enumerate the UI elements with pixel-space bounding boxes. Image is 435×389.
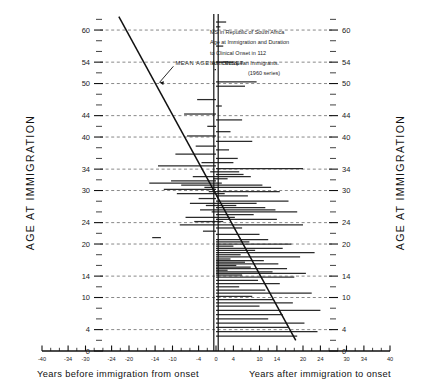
y-tick-label-right: 34 (342, 165, 350, 174)
y-tick-label-right: 0 (342, 347, 346, 356)
y-tick-label-right: 40 (342, 133, 350, 142)
x-axis-title-left: Years before immigration from onset (37, 369, 199, 379)
y-tick-label-right: 44 (342, 111, 350, 120)
x-tick-label: -10 (168, 356, 176, 362)
x-tick-label: 34 (361, 356, 367, 362)
chart-title-line: (1960 series) (248, 70, 280, 76)
immigration-onset-chart: -40-34-30-24-20-14-10-404101420243034400… (0, 0, 435, 389)
y-tick-label-left: 40 (82, 133, 90, 142)
chart-root: -40-34-30-24-20-14-10-404101420243034400… (0, 0, 435, 389)
y-tick-label-right: 30 (342, 186, 350, 195)
x-tick-label: -20 (125, 356, 133, 362)
x-tick-label: -40 (38, 356, 46, 362)
y-tick-label-right: 54 (342, 58, 350, 67)
y-tick-label-left: 14 (82, 272, 90, 281)
x-tick-label: 14 (274, 356, 280, 362)
chart-title-line: to Clinical Onset in 112 (210, 50, 266, 56)
y-tick-label-right: 50 (342, 79, 350, 88)
y-axis-title-left: AGE AT IMMIGRATION (24, 115, 36, 250)
y-tick-label-left: 20 (82, 240, 90, 249)
x-tick-label: 10 (256, 356, 262, 362)
y-tick-label-right: 24 (342, 218, 350, 227)
y-axis-title-right: AGE AT IMMIGRATION (394, 115, 406, 250)
y-tick-label-right: 60 (342, 26, 350, 35)
y-tick-label-right: 14 (342, 272, 350, 281)
x-tick-label: 20 (300, 356, 306, 362)
y-tick-label-left: 30 (82, 186, 90, 195)
y-tick-label-right: 20 (342, 240, 350, 249)
x-tick-label: 40 (387, 356, 393, 362)
y-tick-label-left: 10 (82, 293, 90, 302)
y-tick-label-left: 34 (82, 165, 90, 174)
y-tick-label-left: 24 (82, 218, 90, 227)
y-tick-label-left: 54 (82, 58, 90, 67)
chart-title-line: Age at Immigration and Duration (210, 39, 289, 45)
y-tick-label-left: 0 (86, 347, 90, 356)
x-tick-label: -4 (196, 356, 201, 362)
x-tick-label: -30 (81, 356, 89, 362)
mean-age-annotation-label: MEAN AGE AT ONSET (175, 60, 244, 66)
x-tick-label: -14 (151, 356, 159, 362)
chart-title-line: MS in Republic of South Africa (210, 29, 285, 35)
y-tick-label-left: 4 (86, 325, 90, 334)
x-tick-label: 30 (343, 356, 349, 362)
x-tick-label: 4 (232, 356, 235, 362)
y-tick-label-left: 44 (82, 111, 90, 120)
x-tick-label: -24 (108, 356, 116, 362)
x-tick-label: 24 (317, 356, 323, 362)
y-tick-label-left: 60 (82, 26, 90, 35)
x-axis-title-right: Years after immigration to onset (249, 369, 391, 379)
x-tick-label: -34 (64, 356, 72, 362)
mean-age-leader-line (159, 66, 173, 82)
y-tick-label-right: 4 (342, 325, 346, 334)
x-tick-label: 0 (214, 356, 217, 362)
y-tick-label-left: 50 (82, 79, 90, 88)
y-tick-label-right: 10 (342, 293, 350, 302)
